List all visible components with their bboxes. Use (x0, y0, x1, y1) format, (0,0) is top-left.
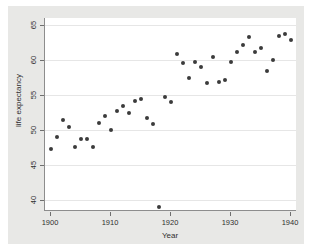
data-point (103, 114, 107, 118)
data-point (169, 100, 173, 104)
scatter-chart-figure: 404550556065 19001910192019301940 life e… (0, 0, 312, 251)
data-point (157, 205, 161, 209)
data-point (79, 137, 83, 141)
data-point (211, 55, 215, 59)
data-point (235, 50, 239, 54)
data-point (187, 76, 191, 80)
y-tick-60 (40, 60, 44, 61)
y-tick-40 (40, 200, 44, 201)
data-point (289, 38, 293, 42)
data-point (55, 135, 59, 139)
data-point (61, 118, 65, 122)
data-point (217, 80, 221, 84)
gridline-y-65 (45, 25, 296, 26)
x-tick-label-1920: 1920 (162, 218, 179, 227)
data-point (73, 145, 77, 149)
gridline-y-55 (45, 95, 296, 96)
x-axis-title: Year (44, 231, 296, 240)
data-point (241, 43, 245, 47)
data-point (67, 125, 71, 129)
data-point (277, 34, 281, 38)
plot-region (44, 18, 296, 211)
data-point (265, 69, 269, 73)
data-point (145, 116, 149, 120)
data-point (163, 95, 167, 99)
data-point (121, 104, 125, 108)
plot-inner (45, 18, 296, 210)
data-point (115, 109, 119, 113)
data-point (97, 121, 101, 125)
data-point (283, 32, 287, 36)
x-tick-1910 (110, 212, 111, 216)
data-point (109, 128, 113, 132)
x-tick-label-1930: 1930 (222, 218, 239, 227)
data-point (247, 35, 251, 39)
data-point (199, 65, 203, 69)
gridline-y-60 (45, 60, 296, 61)
data-point (253, 50, 257, 54)
gridline-y-40 (45, 200, 296, 201)
data-point (139, 97, 143, 101)
y-tick-label-60: 60 (29, 56, 38, 64)
y-tick-label-40: 40 (29, 196, 38, 204)
x-tick-1920 (170, 212, 171, 216)
data-point (175, 52, 179, 56)
data-point (127, 111, 131, 115)
gridline-y-45 (45, 165, 296, 166)
data-point (49, 147, 53, 151)
data-point (181, 61, 185, 65)
data-point (91, 145, 95, 149)
data-point (151, 122, 155, 126)
x-tick-1930 (230, 212, 231, 216)
y-tick-label-55: 55 (29, 91, 38, 99)
x-tick-1900 (50, 212, 51, 216)
y-tick-65 (40, 25, 44, 26)
y-tick-label-65: 65 (29, 21, 38, 29)
data-point (259, 46, 263, 50)
data-point (223, 78, 227, 82)
y-tick-50 (40, 130, 44, 131)
data-point (193, 60, 197, 64)
x-tick-label-1940: 1940 (282, 218, 299, 227)
data-point (205, 81, 209, 85)
y-tick-55 (40, 95, 44, 96)
y-axis-title: life expectancy (14, 51, 23, 151)
data-point (271, 58, 275, 62)
x-tick-label-1900: 1900 (42, 218, 59, 227)
gridline-y-50 (45, 130, 296, 131)
data-point (85, 137, 89, 141)
data-point (229, 60, 233, 64)
data-point (133, 99, 137, 103)
y-tick-label-45: 45 (29, 161, 38, 169)
y-tick-label-50: 50 (29, 126, 38, 134)
x-tick-1940 (290, 212, 291, 216)
x-tick-label-1910: 1910 (102, 218, 119, 227)
y-tick-45 (40, 165, 44, 166)
